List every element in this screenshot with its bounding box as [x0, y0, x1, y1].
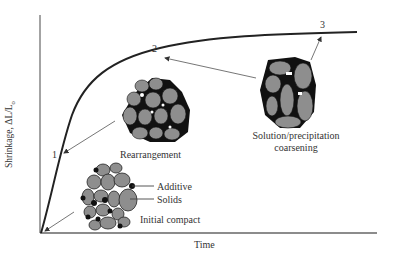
- arrow-stage-2: [165, 58, 256, 78]
- additive-label: Additive: [157, 182, 192, 192]
- rearrangement-particles: [122, 78, 190, 142]
- y-axis-label: Shrinkage, ΔL/Lo: [4, 101, 16, 168]
- initial-compact-particles: [82, 163, 137, 230]
- arrow-initial: [45, 212, 74, 231]
- stage-marker-1: 1: [52, 150, 57, 160]
- sintering-shrinkage-diagram: Shrinkage, ΔL/Lo Time 1 2 3 Rearrangemen…: [0, 0, 397, 256]
- stage-marker-2: 2: [152, 44, 157, 54]
- y-axis-label-text: Shrinkage, ΔL/L: [4, 104, 14, 168]
- rearrangement-label: Rearrangement: [120, 150, 181, 160]
- solids-label: Solids: [157, 195, 182, 205]
- y-axis-label-subscript: o: [9, 101, 16, 104]
- x-axis-label: Time: [194, 240, 215, 250]
- coarsening-label-line1: Solution/precipitation: [244, 131, 348, 141]
- coarsening-label-line2: coarsening: [244, 143, 348, 153]
- arrow-stage-3: [311, 37, 321, 60]
- arrow-stage-1: [64, 121, 115, 153]
- initial-compact-label: Initial compact: [140, 215, 200, 225]
- stage-marker-3: 3: [320, 20, 325, 30]
- coarsening-particles: [260, 57, 316, 128]
